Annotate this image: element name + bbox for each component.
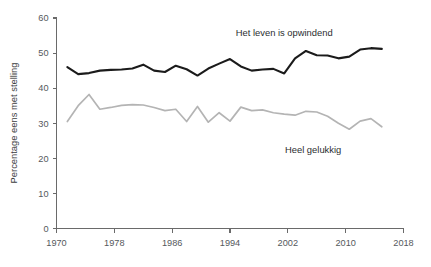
y-tick-group: 0102030405060 bbox=[38, 13, 56, 234]
x-tick-label: 1970 bbox=[46, 238, 66, 248]
series-line-1 bbox=[67, 48, 381, 75]
line-chart: 0102030405060 19701978198619942002201020… bbox=[0, 0, 431, 267]
x-tick-label: 1986 bbox=[162, 238, 182, 248]
series-label-1: Het leven is opwindend bbox=[236, 27, 333, 38]
y-tick-label: 30 bbox=[38, 119, 48, 129]
series-line-2 bbox=[67, 94, 381, 129]
y-tick-label: 20 bbox=[38, 154, 48, 164]
x-tick-label: 1978 bbox=[104, 238, 124, 248]
y-axis-title: Percentage eens met stelling bbox=[8, 63, 19, 184]
chart-container: 0102030405060 19701978198619942002201020… bbox=[0, 0, 431, 267]
y-tick-label: 50 bbox=[38, 48, 48, 58]
x-tick-label: 2018 bbox=[393, 238, 413, 248]
x-tick-label: 2002 bbox=[278, 238, 298, 248]
series-label-2: Heel gelukkig bbox=[285, 144, 341, 155]
y-tick-label: 60 bbox=[38, 13, 48, 23]
y-tick-label: 10 bbox=[38, 189, 48, 199]
x-tick-group: 1970197819861994200220102018 bbox=[46, 229, 413, 248]
series-label-group: Het leven is opwindendHeel gelukkig bbox=[236, 27, 342, 156]
x-tick-label: 1994 bbox=[220, 238, 240, 248]
series-group bbox=[67, 48, 381, 129]
y-tick-label: 40 bbox=[38, 83, 48, 93]
y-tick-label: 0 bbox=[43, 224, 48, 234]
x-tick-label: 2010 bbox=[335, 238, 355, 248]
